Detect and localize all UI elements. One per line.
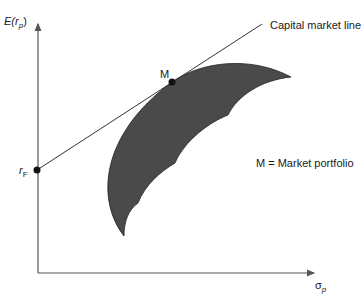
capital-market-line-label: Capital market line (270, 20, 361, 31)
feasible-region (108, 63, 291, 236)
x-axis-label: σp (315, 280, 326, 294)
y-axis-label: E(rp) (4, 16, 27, 30)
market-portfolio-label: M (160, 69, 169, 80)
risk-free-label: rF (19, 165, 28, 179)
diagram-canvas (0, 0, 364, 302)
legend-note: M = Market portfolio (256, 158, 354, 169)
risk-free-point (34, 167, 41, 174)
market-portfolio-point (169, 79, 176, 86)
